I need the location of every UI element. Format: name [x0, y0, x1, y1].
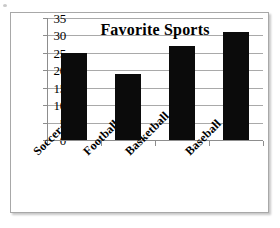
chart-title: Favorite Sports — [47, 21, 263, 39]
scan-artifact — [3, 4, 7, 7]
bar-basketball[interactable] — [169, 46, 195, 140]
chart-frame: Favorite Sports 35 30 25 20 15 10 5 0 — [10, 12, 269, 213]
category-tick-4 — [209, 141, 210, 146]
bar-soccer[interactable] — [61, 53, 87, 140]
bar-baseball[interactable] — [223, 32, 249, 140]
category-tick-5 — [263, 141, 264, 146]
plot-area: Favorite Sports 35 30 25 20 15 10 5 0 — [11, 13, 268, 212]
bar-football[interactable] — [115, 74, 141, 140]
category-tick-3 — [155, 141, 156, 146]
